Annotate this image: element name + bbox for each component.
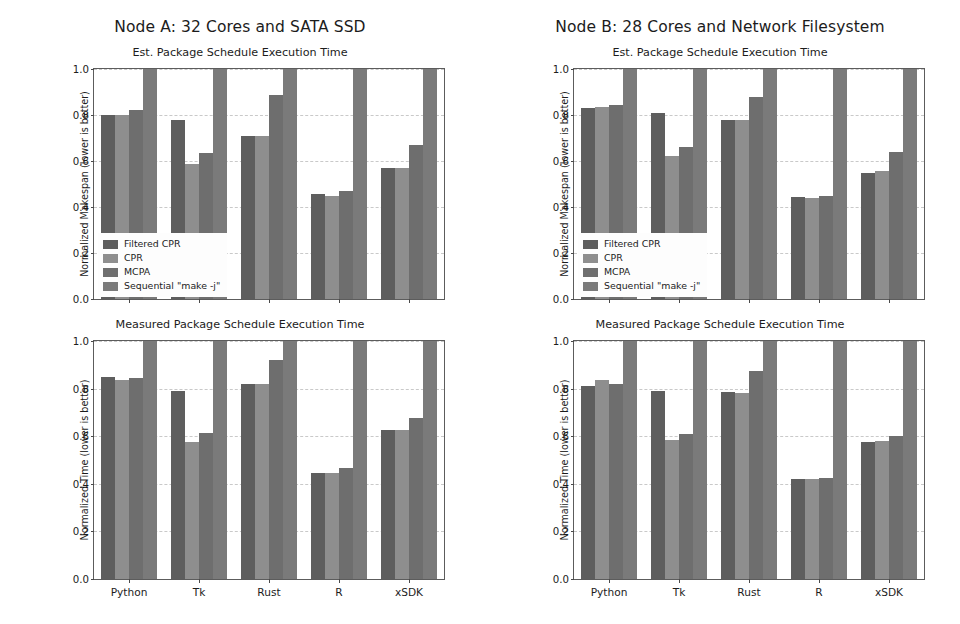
panel-title: Measured Package Schedule Execution Time [480,318,960,331]
bar [409,418,423,579]
bar [339,468,353,579]
bar [353,69,367,299]
bar [311,194,325,299]
y-tick-label: 0.4 [73,478,89,489]
legend-swatch-icon [583,268,598,277]
legend-item[interactable]: Filtered CPR [103,237,220,251]
x-tick-mark [749,579,750,583]
legend: Filtered CPRCPRMCPASequential "make -j" [98,233,227,297]
bar [255,136,269,299]
y-tick-label: 0.2 [73,248,89,259]
y-tick-mark [571,436,575,437]
legend-label: MCPA [604,267,630,276]
bar [903,341,917,579]
y-tick-label: 1.0 [553,64,569,75]
legend-item[interactable]: Sequential "make -j" [103,279,220,293]
node-a-title: Node A: 32 Cores and SATA SSD [0,18,480,36]
x-tick-mark [409,579,410,583]
y-tick-label: 0.0 [73,574,89,585]
panel-title: Est. Package Schedule Execution Time [480,46,960,59]
bar [805,198,819,299]
node-a-column: Node A: 32 Cores and SATA SSD Est. Packa… [0,0,480,624]
legend-swatch-icon [583,254,598,263]
y-tick-label: 0.2 [553,526,569,537]
bar [903,69,917,299]
panel-title: Est. Package Schedule Execution Time [0,46,480,59]
y-tick-label: 0.0 [73,294,89,305]
panel-node-b-measured: Measured Package Schedule Execution Time… [480,318,960,618]
y-tick-mark [91,69,95,70]
y-tick-mark [91,253,95,254]
legend-item[interactable]: CPR [103,251,220,265]
x-tick-label-rust: Rust [257,586,280,598]
bar [763,341,777,579]
y-tick-label: 0.4 [553,478,569,489]
x-tick-mark [339,299,340,303]
y-tick-mark [571,115,575,116]
bar [581,386,595,579]
bar [665,440,679,579]
y-tick-mark [571,299,575,300]
legend-swatch-icon [103,268,118,277]
legend-item[interactable]: MCPA [583,265,700,279]
bar [311,473,325,579]
legend-label: Filtered CPR [124,239,180,248]
x-tick-mark [269,299,270,303]
y-tick-label: 1.0 [73,64,89,75]
bar [833,69,847,299]
bar [255,384,269,579]
y-tick-label: 0.0 [553,574,569,585]
bar [101,377,115,579]
y-tick-label: 0.6 [73,156,89,167]
bar [889,436,903,579]
x-tick-label-xsdk: xSDK [875,586,903,598]
bar [875,441,889,579]
bar [115,380,129,579]
axes: Normalized Makespan (lower is better) Fi… [573,68,925,300]
x-tick-mark [819,579,820,583]
y-tick-label: 0.8 [73,110,89,121]
x-tick-label-python: Python [111,586,148,598]
bar [735,120,749,299]
y-tick-label: 0.4 [73,202,89,213]
y-tick-mark [571,531,575,532]
panel-node-a-est: Est. Package Schedule Execution Time Nor… [0,46,480,336]
x-tick-label-r: R [335,586,342,598]
y-tick-label: 0.6 [553,431,569,442]
legend-label: Sequential "make -j" [604,281,700,290]
panel-title: Measured Package Schedule Execution Time [0,318,480,331]
bar [749,97,763,299]
bar [735,393,749,579]
bar [749,371,763,579]
bar [381,430,395,579]
plot-area [574,341,924,579]
y-tick-label: 0.2 [553,248,569,259]
bar [819,478,833,579]
legend-swatch-icon [103,282,118,291]
bar [283,341,297,579]
legend-item[interactable]: Filtered CPR [583,237,700,251]
legend-item[interactable]: Sequential "make -j" [583,279,700,293]
x-tick-label-tk: Tk [193,586,206,598]
y-tick-label: 0.4 [553,202,569,213]
legend-label: CPR [604,253,623,262]
x-tick-mark [339,579,340,583]
bar [143,341,157,579]
x-tick-label-r: R [815,586,822,598]
bar [805,479,819,579]
legend-item[interactable]: CPR [583,251,700,265]
bar [199,433,213,579]
bar [819,196,833,300]
bar [693,341,707,579]
legend-item[interactable]: MCPA [103,265,220,279]
legend-swatch-icon [103,240,118,249]
bar [423,341,437,579]
bar [861,173,875,300]
legend-swatch-icon [103,254,118,263]
x-tick-label-rust: Rust [737,586,760,598]
y-axis-label: Normalized Time (lower is better) [79,380,90,541]
bar [609,384,623,579]
x-tick-label-python: Python [591,586,628,598]
x-tick-mark [679,579,680,583]
node-b-title: Node B: 28 Cores and Network Filesystem [480,18,960,36]
